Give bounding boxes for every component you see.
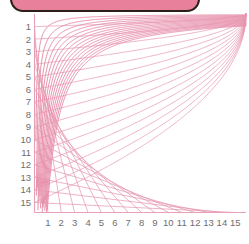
x-tick-label: 15 xyxy=(230,217,241,228)
x-tick-label: 11 xyxy=(177,217,187,228)
y-tick-label: 7 xyxy=(26,96,31,107)
mesh-curve xyxy=(35,14,247,115)
hyperbola-curve xyxy=(40,19,246,196)
y-tick-label: 11 xyxy=(21,147,31,158)
y-tick-label: 4 xyxy=(26,59,31,70)
y-tick-label: 14 xyxy=(20,184,31,195)
y-tick-label: 3 xyxy=(26,46,31,57)
x-tick-label: 7 xyxy=(126,217,131,228)
y-axis-tick-labels: 123456789101112131415 xyxy=(20,21,31,208)
mesh-curve xyxy=(35,14,247,127)
x-tick-label: 13 xyxy=(203,217,214,228)
y-tick-label: 9 xyxy=(26,121,31,132)
x-tick-label: 10 xyxy=(163,217,174,228)
hyperbola-plot: 123456789101112131415 123456789101112131… xyxy=(0,0,249,244)
y-tick-label: 10 xyxy=(20,134,31,145)
y-tick-label: 1 xyxy=(26,21,31,32)
x-tick-label: 5 xyxy=(99,217,104,228)
hyperbola-curve xyxy=(36,16,246,196)
hyperbola-curve xyxy=(38,17,246,210)
x-tick-label: 2 xyxy=(59,217,64,228)
y-tick-label: 6 xyxy=(26,84,31,95)
hyperbola-curve xyxy=(43,22,246,207)
x-axis-tick-labels: 123456789101112131415 xyxy=(45,217,240,228)
x-tick-label: 1 xyxy=(45,217,50,228)
y-tick-label: 15 xyxy=(20,197,31,208)
hyperbola-curve xyxy=(46,25,246,212)
x-tick-label: 12 xyxy=(190,217,201,228)
x-tick-label: 3 xyxy=(72,217,77,228)
y-tick-label: 8 xyxy=(26,109,31,120)
y-tick-label: 13 xyxy=(20,172,31,183)
chord-line xyxy=(35,202,236,212)
chord-line xyxy=(35,140,169,213)
x-tick-label: 9 xyxy=(152,217,157,228)
y-tick-label: 2 xyxy=(26,34,31,45)
hyperbola-curve xyxy=(39,18,246,201)
x-tick-label: 4 xyxy=(85,217,90,228)
y-tick-label: 5 xyxy=(26,71,31,82)
x-tick-label: 14 xyxy=(217,217,228,228)
y-tick-label: 12 xyxy=(20,159,31,170)
x-tick-label: 6 xyxy=(112,217,117,228)
chart-figure: 123456789101112131415 123456789101112131… xyxy=(0,0,249,244)
x-tick-label: 8 xyxy=(139,217,144,228)
curve-family-secondary xyxy=(35,14,247,213)
